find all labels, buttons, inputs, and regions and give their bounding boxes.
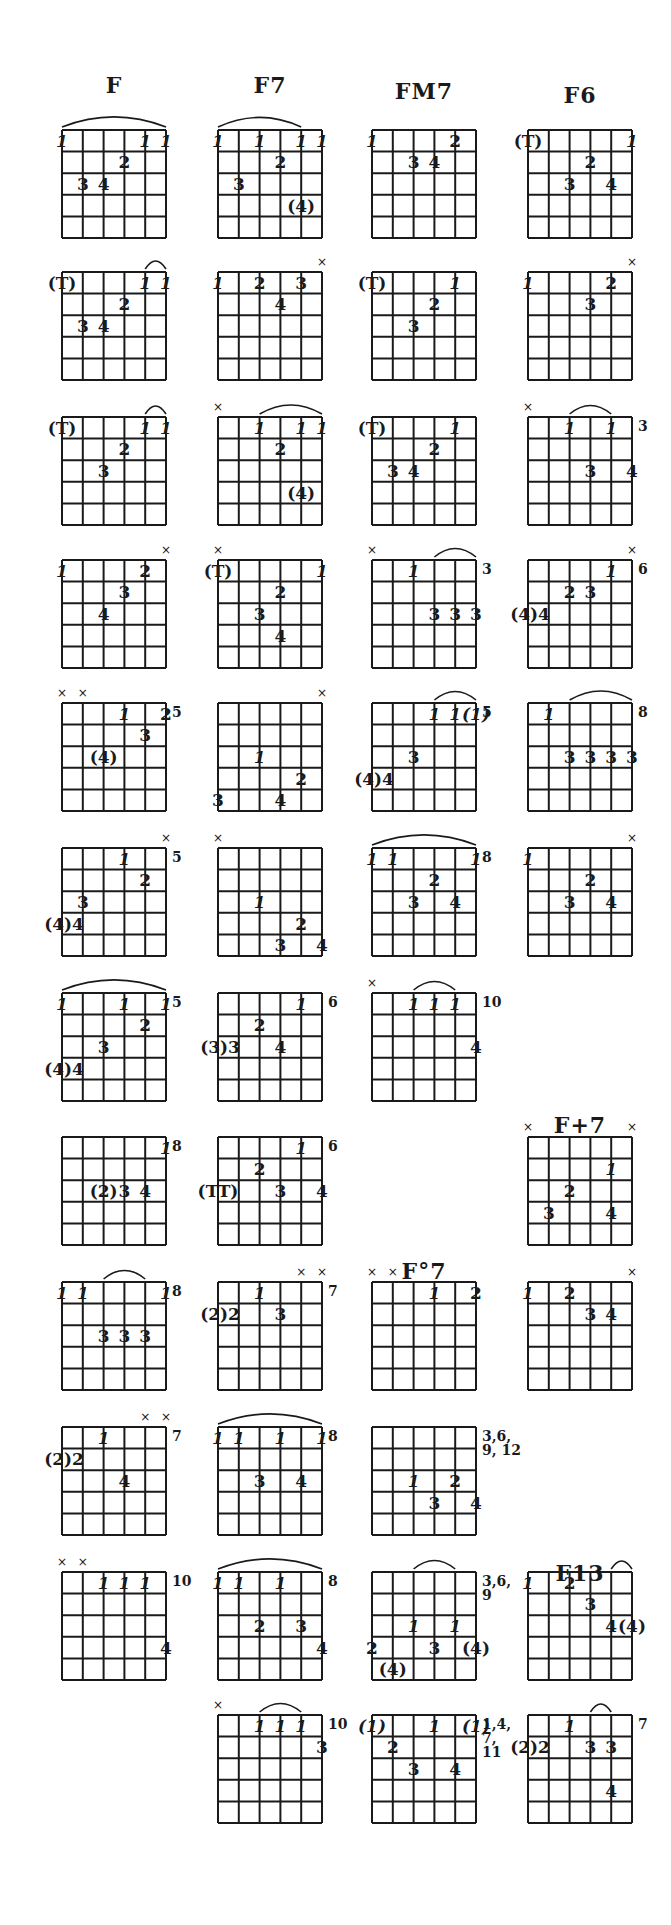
finger-marker: (1) — [358, 1716, 386, 1736]
finger-marker: 1 — [449, 704, 461, 724]
finger-marker: 1 — [212, 273, 224, 293]
chord-diagram: ××123(4)5 — [32, 673, 202, 823]
fret-position-label: 6 — [638, 561, 648, 577]
fret-position-label: 8 — [638, 704, 648, 720]
finger-marker: 4 — [98, 316, 110, 336]
finger-marker: 1 — [160, 994, 172, 1014]
finger-marker: 3 — [98, 461, 110, 481]
finger-marker: 1 — [522, 273, 534, 293]
finger-marker: 1 — [470, 849, 482, 869]
finger-marker: 1 — [316, 131, 328, 151]
chord-diagram: (1)1(1)2341,4,7,11 — [342, 1685, 512, 1835]
finger-marker: 1 — [366, 849, 378, 869]
muted-string-icon: × — [57, 1555, 67, 1569]
finger-marker: 1 — [295, 994, 307, 1014]
finger-marker: 1 — [428, 1716, 440, 1736]
chord-diagram: ××111410 — [32, 1542, 202, 1692]
finger-marker: 3 — [254, 604, 266, 624]
finger-marker: 1 — [522, 1573, 534, 1593]
finger-marker: 2 — [564, 582, 576, 602]
finger-marker: 3 — [584, 1737, 596, 1757]
muted-string-icon: × — [627, 831, 637, 845]
muted-string-icon: × — [523, 400, 533, 414]
finger-marker: 2 — [564, 1181, 576, 1201]
barre-arc-icon — [414, 981, 456, 990]
finger-marker: 3 — [428, 1638, 440, 1658]
finger-marker: (T) — [204, 561, 233, 581]
finger-marker: 1 — [160, 1138, 172, 1158]
chord-diagram: (T)1123 — [32, 387, 202, 537]
fret-position-label: 8 — [172, 1138, 182, 1154]
finger-marker: 4 — [605, 1781, 617, 1801]
finger-marker: 2 — [295, 769, 307, 789]
fret-position-label: 8 — [328, 1573, 338, 1589]
finger-marker: 2 — [254, 1015, 266, 1035]
finger-marker: 4 — [295, 1471, 307, 1491]
chord-diagram: ×1234 — [188, 818, 358, 968]
finger-marker: (T) — [48, 418, 77, 438]
finger-marker: 4 — [605, 174, 617, 194]
finger-marker: 3 — [408, 1759, 420, 1779]
finger-marker: 1 — [254, 1716, 266, 1736]
fret-position-label: 9 — [482, 1587, 492, 1603]
finger-marker: 3 — [233, 174, 245, 194]
finger-marker: 1 — [274, 1716, 286, 1736]
finger-marker: (4) — [379, 1659, 407, 1679]
muted-string-icon: × — [367, 976, 377, 990]
muted-string-icon: × — [367, 1265, 377, 1279]
barre-arc-icon — [570, 691, 632, 700]
finger-marker: 3 — [387, 461, 399, 481]
finger-marker: (4)4 — [354, 769, 394, 789]
finger-marker: 4 — [98, 604, 110, 624]
muted-string-icon: × — [627, 255, 637, 269]
finger-marker: 3 — [77, 316, 89, 336]
barre-arc-icon — [611, 1561, 632, 1569]
chord-diagram: 1234(4) — [498, 1542, 668, 1692]
muted-string-icon: × — [57, 686, 67, 700]
barre-arc-icon — [62, 117, 166, 127]
finger-marker: 1 — [449, 994, 461, 1014]
chord-diagram: (T)123 — [342, 242, 512, 392]
finger-marker: 1 — [160, 418, 172, 438]
chord-diagram: 1(2)23347 — [498, 1685, 668, 1835]
chord-diagram: ××1234 — [498, 1107, 668, 1257]
muted-string-icon: × — [78, 1555, 88, 1569]
finger-marker: 1 — [522, 1283, 534, 1303]
finger-marker: 2 — [295, 914, 307, 934]
finger-marker: (4)4 — [44, 1059, 84, 1079]
finger-marker: 3 — [584, 461, 596, 481]
finger-marker: 2 — [387, 1737, 399, 1757]
muted-string-icon: × — [161, 831, 171, 845]
fret-position-label: 6 — [328, 1138, 338, 1154]
finger-marker: 2 — [428, 439, 440, 459]
finger-marker: 2 — [139, 870, 151, 890]
chord-diagram: ×111410 — [342, 963, 512, 1113]
finger-marker: 3 — [212, 790, 224, 810]
finger-marker: 3 — [274, 935, 286, 955]
finger-marker: 3 — [584, 747, 596, 767]
fret-position-label: 7 — [172, 1428, 182, 1444]
finger-marker: 4 — [274, 790, 286, 810]
finger-marker: 3 — [139, 725, 151, 745]
finger-marker: 2 — [564, 1283, 576, 1303]
barre-arc-icon — [372, 835, 476, 845]
chord-diagram: 1113338 — [32, 1252, 202, 1402]
fret-position-label: 6 — [328, 994, 338, 1010]
chord-diagram: 1(2)348 — [32, 1107, 202, 1257]
muted-string-icon: × — [213, 1698, 223, 1712]
finger-marker: 3 — [274, 1181, 286, 1201]
finger-marker: 1 — [254, 747, 266, 767]
fret-position-label: 3 — [482, 561, 492, 577]
chord-diagram: ×13333 — [342, 530, 512, 680]
barre-arc-icon — [434, 548, 476, 557]
muted-string-icon: × — [367, 543, 377, 557]
finger-marker: 3 — [564, 174, 576, 194]
chord-diagram: ×1234 — [188, 242, 358, 392]
chord-diagram: ××12 — [342, 1252, 512, 1402]
finger-marker: 3 — [139, 1326, 151, 1346]
finger-marker: (4)4 — [510, 604, 550, 624]
finger-marker: 1 — [543, 704, 555, 724]
fret-position-label: 5 — [482, 704, 492, 720]
finger-marker: 1 — [449, 418, 461, 438]
finger-marker: 1 — [56, 561, 68, 581]
